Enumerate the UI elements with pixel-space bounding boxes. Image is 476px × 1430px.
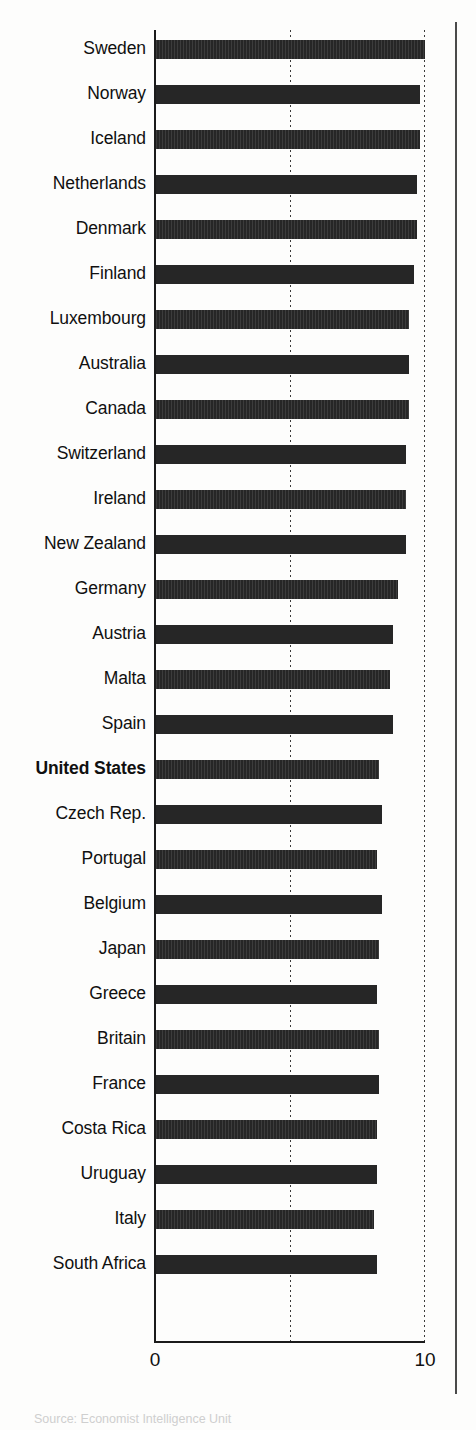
x-tick-label-10: 10: [405, 1348, 445, 1372]
bar-row-label: Sweden: [0, 38, 146, 59]
bar-rows: SwedenNorwayIcelandNetherlandsDenmarkFin…: [0, 30, 476, 1290]
bar-row-label: Canada: [0, 398, 146, 419]
bar-row: Luxembourg: [0, 300, 476, 345]
bar-row: Denmark: [0, 210, 476, 255]
bar-row-label: Costa Rica: [0, 1118, 146, 1139]
bar: [156, 625, 393, 644]
bar-row: Uruguay: [0, 1155, 476, 1200]
bar-row: Italy: [0, 1200, 476, 1245]
bar-row-label: Denmark: [0, 218, 146, 239]
bar: [156, 310, 409, 329]
bar-row-label: Malta: [0, 668, 146, 689]
bar-row-label: New Zealand: [0, 533, 146, 554]
bar-row: France: [0, 1065, 476, 1110]
x-tick-label-0: 0: [135, 1348, 175, 1372]
bar-chart-figure: SwedenNorwayIcelandNetherlandsDenmarkFin…: [0, 0, 476, 1430]
bar-row: Netherlands: [0, 165, 476, 210]
bar: [156, 355, 409, 374]
bar-row-label: Italy: [0, 1208, 146, 1229]
bar: [156, 1120, 377, 1139]
bar: [156, 760, 379, 779]
bar-row-label: Uruguay: [0, 1163, 146, 1184]
bar-row: Sweden: [0, 30, 476, 75]
bar-row: Belgium: [0, 885, 476, 930]
bar: [156, 175, 417, 194]
bar: [156, 1030, 379, 1049]
bar: [156, 1255, 377, 1274]
bar-row-label: Czech Rep.: [0, 803, 146, 824]
bar-row-label: Britain: [0, 1028, 146, 1049]
bar-row-label: Netherlands: [0, 173, 146, 194]
bar-row-label: Luxembourg: [0, 308, 146, 329]
bar: [156, 670, 390, 689]
x-axis-baseline: [155, 1341, 425, 1343]
bar-row: Germany: [0, 570, 476, 615]
bar-row: Costa Rica: [0, 1110, 476, 1155]
bar: [156, 265, 414, 284]
bar-row-label: Australia: [0, 353, 146, 374]
bar: [156, 715, 393, 734]
source-note: Source: Economist Intelligence Unit: [34, 1412, 444, 1427]
bar-row-label: Norway: [0, 83, 146, 104]
bar: [156, 805, 382, 824]
bar-row: Finland: [0, 255, 476, 300]
bar: [156, 1210, 374, 1229]
bar: [156, 40, 425, 59]
bar-row-label: France: [0, 1073, 146, 1094]
bar: [156, 580, 398, 599]
bar-row: Japan: [0, 930, 476, 975]
bar-row: Switzerland: [0, 435, 476, 480]
bar-row: Australia: [0, 345, 476, 390]
bar-row-label: Germany: [0, 578, 146, 599]
bar-row-label: South Africa: [0, 1253, 146, 1274]
bar-row: Norway: [0, 75, 476, 120]
x-axis: 0 10: [0, 1348, 476, 1378]
bar-row: Iceland: [0, 120, 476, 165]
bar: [156, 130, 420, 149]
bar-row-label: Ireland: [0, 488, 146, 509]
bar-row-label: Greece: [0, 983, 146, 1004]
bar: [156, 940, 379, 959]
bar-row-label: Japan: [0, 938, 146, 959]
bar-row-label: Iceland: [0, 128, 146, 149]
bar-row-label: Belgium: [0, 893, 146, 914]
bar-row-label: Switzerland: [0, 443, 146, 464]
bar: [156, 850, 377, 869]
bar-row: Malta: [0, 660, 476, 705]
bar: [156, 400, 409, 419]
column-divider-rule: [455, 22, 457, 1394]
bar-row: Czech Rep.: [0, 795, 476, 840]
bar-row-label: Portugal: [0, 848, 146, 869]
bar-row-label: Finland: [0, 263, 146, 284]
bar-row-label: Spain: [0, 713, 146, 734]
bar-row: Portugal: [0, 840, 476, 885]
bar: [156, 220, 417, 239]
bar-row-label: United States: [0, 758, 146, 779]
bar-row: Spain: [0, 705, 476, 750]
bar-row: New Zealand: [0, 525, 476, 570]
bar-row: South Africa: [0, 1245, 476, 1290]
bar: [156, 895, 382, 914]
bar-row: Austria: [0, 615, 476, 660]
bar-row: United States: [0, 750, 476, 795]
bar-row: Britain: [0, 1020, 476, 1065]
bar: [156, 445, 406, 464]
bar-row-label: Austria: [0, 623, 146, 644]
bar: [156, 490, 406, 509]
bar-row: Greece: [0, 975, 476, 1020]
bar-row: Ireland: [0, 480, 476, 525]
bar: [156, 1165, 377, 1184]
bar-row: Canada: [0, 390, 476, 435]
bar: [156, 1075, 379, 1094]
bar: [156, 985, 377, 1004]
bar: [156, 535, 406, 554]
bar: [156, 85, 420, 104]
plot-area: SwedenNorwayIcelandNetherlandsDenmarkFin…: [0, 0, 476, 1430]
